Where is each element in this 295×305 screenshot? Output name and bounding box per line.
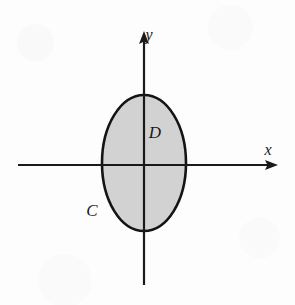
x-axis-label: x [263, 141, 271, 158]
coordinate-plane-diagram: x y D C [0, 0, 295, 305]
figure-container: x y D C [0, 0, 295, 305]
region-label-D: D [148, 123, 162, 142]
curve-label-C: C [86, 201, 98, 220]
y-axis-label: y [143, 26, 153, 44]
